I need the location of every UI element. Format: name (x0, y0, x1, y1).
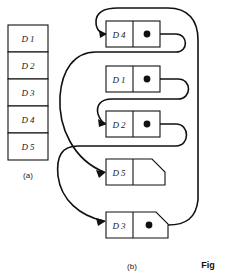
arrowhead-into-d3 (96, 218, 106, 226)
pointer-dot-d4 (144, 31, 151, 38)
node-label-d4: D 4 (111, 30, 126, 40)
pointer-dot-d1 (144, 76, 151, 83)
list-node-d3: D 3 (106, 212, 168, 238)
label-panel-b: (b) (127, 262, 137, 271)
node-label-d2: D 2 (111, 120, 126, 130)
array-cell-label-0: D 1 (20, 34, 34, 44)
panel-a-array: D 1 D 2 D 3 D 4 D 5 (a) (8, 25, 48, 180)
array-cell-label-1: D 2 (20, 61, 35, 71)
list-node-d4: D 4 (106, 21, 160, 47)
panel-b-linked-list: D 4 D 1 D 2 D 5 D 3 (58, 8, 198, 271)
pointer-dot-d3 (146, 222, 153, 229)
array-cell-label-2: D 3 (20, 88, 35, 98)
pointer-dot-d2 (144, 121, 151, 128)
figure-caption: Fig (201, 260, 215, 270)
array-cell-label-4: D 5 (20, 142, 35, 152)
list-node-d2: D 2 (106, 111, 160, 137)
array-cell-label-3: D 4 (20, 115, 35, 125)
label-panel-a: (a) (23, 171, 33, 180)
edge-d4-to-d5 (60, 34, 186, 172)
figure-canvas: D 1 D 2 D 3 D 4 D 5 (a) D 4 (0, 0, 234, 279)
node-label-d3: D 3 (111, 221, 126, 231)
node-label-d1: D 1 (111, 75, 125, 85)
node-label-d5: D 5 (111, 168, 126, 178)
list-node-d5: D 5 (106, 159, 165, 185)
list-node-d1: D 1 (106, 66, 160, 92)
arrowhead-into-d5 (96, 170, 106, 178)
